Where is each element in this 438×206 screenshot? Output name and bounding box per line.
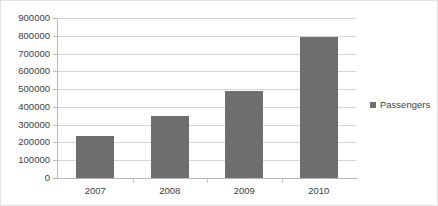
bar-chart: 9000008000007000006000005000004000003000… xyxy=(0,0,438,206)
bar-group xyxy=(133,18,208,178)
x-axis-tick-label: 2008 xyxy=(159,186,180,196)
x-axis-tick xyxy=(282,179,283,183)
y-axis-tick xyxy=(53,36,57,37)
y-axis-tick xyxy=(53,71,57,72)
bar xyxy=(300,37,338,179)
y-axis-tick-label: 600000 xyxy=(2,67,50,77)
x-axis-tick-label: 2010 xyxy=(308,186,329,196)
x-axis-tick-label: 2007 xyxy=(85,186,106,196)
legend-item-label: Passengers xyxy=(380,100,430,110)
y-axis-tick-label: 900000 xyxy=(2,13,50,23)
y-axis-tick-label: 700000 xyxy=(2,49,50,59)
bar xyxy=(151,116,189,178)
bar xyxy=(225,91,263,178)
y-axis-labels: 9000008000007000006000005000004000003000… xyxy=(1,1,50,206)
y-axis-tick xyxy=(53,89,57,90)
y-axis-tick xyxy=(53,178,57,179)
x-axis-tick xyxy=(133,179,134,183)
y-axis-tick xyxy=(53,54,57,55)
y-axis-tick xyxy=(53,18,57,19)
bar-group xyxy=(58,18,133,178)
y-axis-tick xyxy=(53,160,57,161)
y-axis-tick-label: 0 xyxy=(2,173,50,183)
y-axis-tick xyxy=(53,142,57,143)
y-axis-tick-label: 200000 xyxy=(2,138,50,148)
y-axis-tick-label: 400000 xyxy=(2,102,50,112)
bar-group xyxy=(207,18,282,178)
y-axis-tick-label: 500000 xyxy=(2,84,50,94)
chart-legend: Passengers xyxy=(370,100,430,110)
plot-area xyxy=(58,18,356,178)
x-axis-tick xyxy=(207,179,208,183)
y-axis-tick-label: 100000 xyxy=(2,155,50,165)
x-axis-tick-label: 2009 xyxy=(234,186,255,196)
y-axis-tick-label: 800000 xyxy=(2,31,50,41)
y-axis-tick xyxy=(53,107,57,108)
bar xyxy=(76,136,114,178)
y-axis-tick-label: 300000 xyxy=(2,120,50,130)
bar-group xyxy=(282,18,357,178)
y-axis-tick xyxy=(53,125,57,126)
square-marker-icon xyxy=(370,102,376,108)
